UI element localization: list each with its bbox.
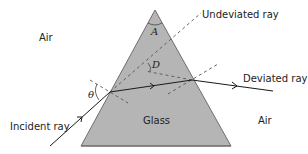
incident-ray-label: Incident ray	[10, 122, 70, 132]
incidence-angle-arc	[95, 84, 99, 100]
deviated-ray-label: Deviated ray	[243, 74, 307, 84]
air-right-label: Air	[258, 116, 272, 126]
air-left-label: Air	[39, 33, 53, 43]
glass-label: Glass	[143, 116, 170, 126]
incidence-angle-label: θ	[88, 90, 94, 100]
deviation-angle-label: D	[152, 60, 160, 70]
undeviated-ray-label: Undeviated ray	[202, 10, 279, 20]
apex-angle-label: A	[151, 27, 158, 37]
